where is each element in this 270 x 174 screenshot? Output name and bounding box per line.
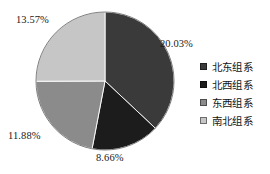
slice-value-label-eastwest: 11.88% [8, 130, 41, 141]
legend-swatch-icon-northwest [200, 81, 207, 88]
legend-swatch-icon-northsouth [200, 117, 207, 124]
legend-item-northeast[interactable]: 北东组系 [200, 58, 270, 75]
legend-label-eastwest: 东西组系 [212, 95, 253, 110]
pie-slice-group [36, 12, 174, 150]
legend-item-northwest[interactable]: 北西组系 [200, 76, 270, 93]
legend-swatch-icon-eastwest [200, 99, 207, 106]
legend-label-northeast: 北东组系 [212, 59, 253, 74]
chart-legend: 北东组系 北西组系 东西组系 南北组系 [200, 58, 270, 130]
slice-value-label-northeast: 20.03% [160, 38, 193, 49]
legend-swatch-icon-northeast [200, 63, 207, 70]
slice-value-label-northsouth: 13.57% [16, 14, 49, 25]
legend-item-northsouth[interactable]: 南北组系 [200, 112, 270, 129]
legend-item-eastwest[interactable]: 东西组系 [200, 94, 270, 111]
pie-svg [0, 0, 195, 174]
legend-label-northwest: 北西组系 [212, 77, 253, 92]
chart-plot-area: 20.03% 8.66% 11.88% 13.57% [0, 0, 195, 174]
slice-value-label-northwest: 8.66% [96, 152, 124, 163]
legend-label-northsouth: 南北组系 [212, 113, 253, 128]
pie-chart-figure: 20.03% 8.66% 11.88% 13.57% 北东组系 北西组系 东西组… [0, 0, 270, 174]
